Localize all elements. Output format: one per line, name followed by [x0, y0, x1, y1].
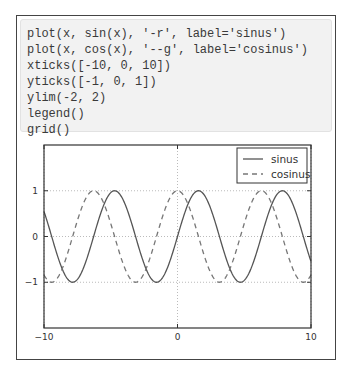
x-tick-label: −10 — [35, 332, 54, 342]
x-tick-label: 10 — [305, 332, 317, 342]
y-tick-label: 0 — [32, 232, 38, 242]
legend-label-cosinus: cosinus — [271, 168, 310, 180]
plot-area: −10010−101sinuscosinus — [0, 0, 351, 377]
legend-label-sinus: sinus — [271, 153, 298, 165]
x-tick-label: 0 — [175, 332, 181, 342]
y-tick-label: 1 — [32, 186, 38, 196]
y-tick-label: −1 — [25, 277, 38, 287]
